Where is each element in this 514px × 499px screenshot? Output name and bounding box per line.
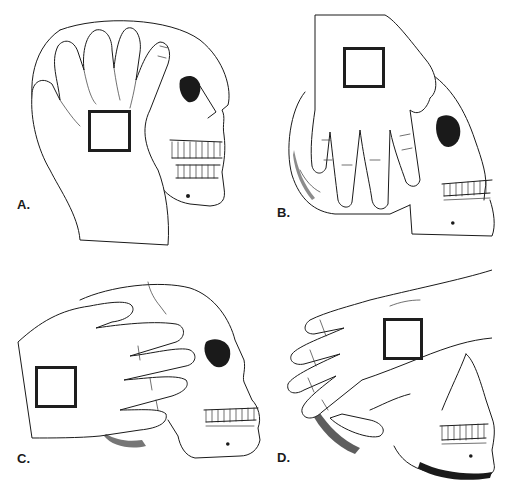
panel-label-c: C. — [17, 452, 30, 465]
panel-label-b: B. — [277, 206, 290, 219]
panel-b: B. — [260, 0, 514, 245]
marker-square-c — [35, 366, 77, 408]
panel-label-d: D. — [277, 451, 290, 464]
panel-d: D. — [270, 250, 514, 499]
skull-hand-illustration-b — [260, 0, 514, 245]
panel-label-a: A. — [17, 198, 30, 211]
marker-square-b — [343, 47, 385, 88]
marker-square-a — [88, 110, 131, 152]
marker-square-d — [383, 318, 423, 360]
skull-hand-illustration-d — [270, 250, 514, 499]
figure-four-panel: A. B. — [0, 0, 514, 499]
panel-c: C. — [0, 250, 270, 499]
panel-a: A. — [0, 0, 260, 245]
